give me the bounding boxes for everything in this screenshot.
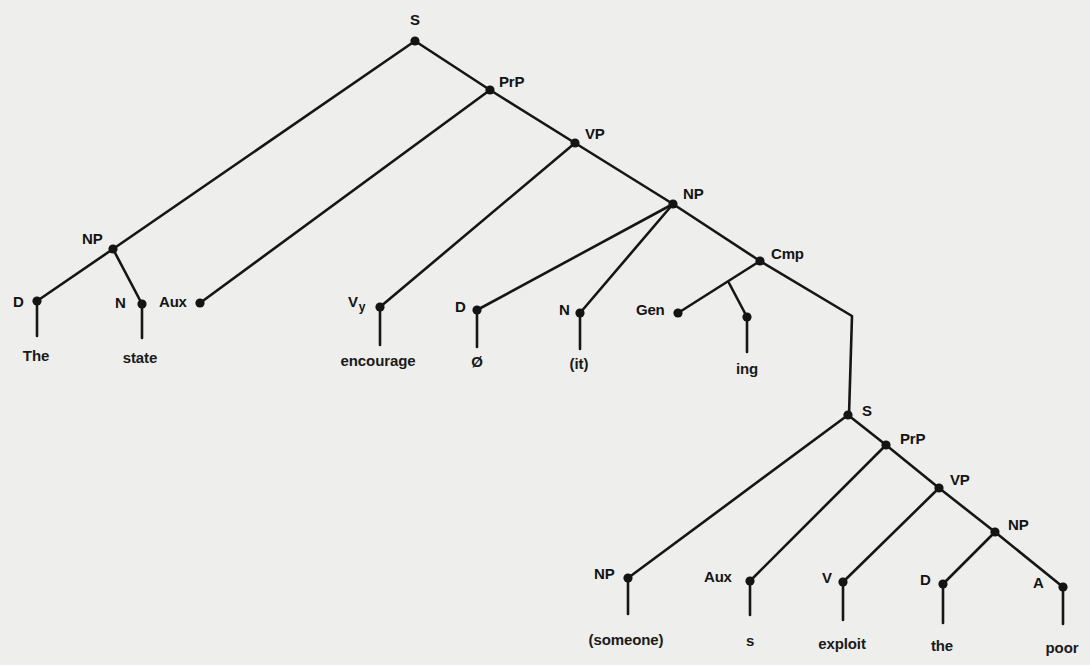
node-dot-cmp	[755, 256, 764, 265]
node-label-vp1: VP	[585, 126, 605, 141]
node-label-np1: NP	[683, 186, 703, 201]
edge-s1-prp1	[415, 41, 490, 90]
edge-np2-d3	[943, 532, 995, 584]
node-label-vp2: VP	[950, 472, 970, 487]
node-dot-ing_node	[742, 312, 751, 321]
leaf-word-vy: encourage	[341, 353, 416, 368]
leaf-word-v2: exploit	[818, 636, 866, 651]
node-dot-s1	[410, 36, 419, 45]
edge-vp1-np1	[575, 143, 673, 204]
syntax-tree-diagram: SPrPVPNPCmpNPDNAuxVyDNGenSPrPVPNPNPAuxVD…	[0, 0, 1090, 665]
node-dot-gen	[673, 308, 682, 317]
edge-s1-np_subj	[113, 41, 415, 249]
node-dot-np1	[668, 199, 677, 208]
node-dot-n2	[575, 308, 584, 317]
node-dot-aux2	[745, 576, 754, 585]
edge-prp1-vp1	[490, 90, 575, 143]
node-label-gen: Gen	[636, 302, 665, 317]
node-dot-d3	[938, 579, 947, 588]
edge-s2-np3	[628, 415, 848, 578]
edge-s2-prp2	[848, 415, 886, 445]
node-label-prp1: PrP	[499, 74, 524, 89]
edge-np2-a1	[995, 532, 1063, 587]
node-dot-d1	[32, 296, 41, 305]
node-label-vy: Vy	[348, 294, 365, 313]
node-label-d3: D	[920, 572, 931, 587]
node-label-prp2: PrP	[900, 431, 925, 446]
node-dot-vp2	[934, 483, 943, 492]
node-label-s1: S	[410, 12, 420, 27]
node-label-np_subj: NP	[82, 231, 102, 246]
node-label-aux2: Aux	[704, 569, 732, 584]
node-dot-np3	[623, 573, 632, 582]
node-label-s2: S	[862, 403, 872, 418]
node-dot-prp1	[485, 85, 494, 94]
leaf-word-ing_node: ing	[736, 361, 758, 376]
node-dot-s2	[843, 410, 852, 419]
node-label-d2: D	[455, 299, 466, 314]
node-dot-v2	[838, 577, 847, 586]
leaf-word-n1: state	[123, 350, 158, 365]
edge-np_subj-d1	[37, 249, 113, 301]
node-dot-n1	[137, 299, 146, 308]
node-label-d1: D	[13, 294, 24, 309]
node-dot-np_subj	[108, 244, 117, 253]
leaf-word-d1: The	[23, 348, 49, 363]
node-dot-vp1	[570, 138, 579, 147]
node-dot-prp2	[881, 440, 890, 449]
edge-cmp-gen	[678, 261, 760, 313]
node-label-n1: N	[115, 295, 126, 310]
cmp-to-embedded-s	[760, 261, 852, 415]
edge-np1-n2	[580, 204, 673, 313]
edge-prp1-aux1	[200, 90, 490, 303]
edge-vp1-vy	[380, 143, 575, 307]
edge-np1-cmp	[673, 204, 760, 261]
leaf-word-np3: (someone)	[589, 632, 664, 647]
edge-np1-d2	[477, 204, 673, 310]
node-dot-np2	[990, 527, 999, 536]
node-dot-vy	[375, 302, 384, 311]
node-label-np3: NP	[594, 566, 614, 581]
edge-prp2-vp2	[886, 445, 939, 488]
leaf-word-n2: (it)	[570, 356, 589, 371]
leaf-word-a1: poor	[1046, 640, 1079, 655]
node-label-cmp: Cmp	[771, 246, 804, 261]
node-label-aux1: Aux	[159, 294, 187, 309]
node-label-np2: NP	[1008, 517, 1028, 532]
node-label-n2: N	[559, 302, 570, 317]
edge-vp2-v2	[843, 488, 939, 582]
node-dot-d2	[472, 305, 481, 314]
ing-branch	[729, 283, 747, 317]
leaf-word-d2: Ø	[471, 354, 483, 369]
tree-edges	[0, 0, 1090, 665]
leaf-word-aux2: s	[746, 633, 754, 648]
node-label-a1: A	[1033, 575, 1044, 590]
node-dot-a1	[1058, 582, 1067, 591]
node-label-v2: V	[822, 570, 832, 585]
node-dot-aux1	[195, 298, 204, 307]
leaf-word-d3: the	[931, 638, 953, 653]
edge-vp2-np2	[939, 488, 995, 532]
